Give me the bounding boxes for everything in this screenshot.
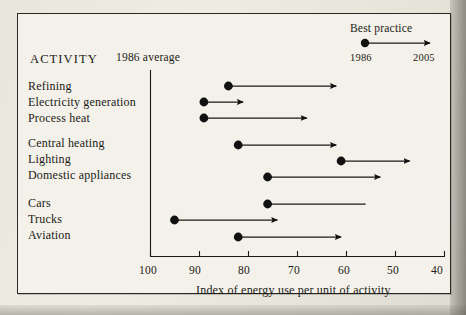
marker-domestic-appliances-1986 [263, 173, 272, 182]
marker-refining-1986 [224, 82, 233, 91]
marker-process-heat-1986 [200, 114, 209, 123]
series-row-domestic-appliances [263, 173, 380, 182]
legend-start-dot [361, 39, 369, 47]
screenshot-root: ACTIVITY 1986 average Best practice 1986… [0, 0, 466, 315]
marker-central-heating-1986 [234, 141, 243, 150]
marker-electricity-generation-1986 [200, 98, 209, 107]
x-axis-ticks [151, 251, 445, 256]
marker-lighting-1986 [337, 157, 346, 166]
marker-cars-1986 [263, 200, 272, 209]
series-row-trucks [170, 216, 277, 225]
series-row-central-heating [234, 141, 336, 150]
series-row-aviation [234, 233, 341, 242]
chart-plot-area [0, 0, 466, 315]
series-row-lighting [337, 157, 410, 166]
marker-trucks-1986 [170, 216, 179, 225]
legend-key [361, 39, 430, 47]
marker-aviation-1986 [234, 233, 243, 242]
series-row-process-heat [200, 114, 307, 123]
series-row-cars [263, 200, 365, 209]
series-row-refining [224, 82, 336, 91]
series-row-electricity-generation [200, 98, 244, 107]
